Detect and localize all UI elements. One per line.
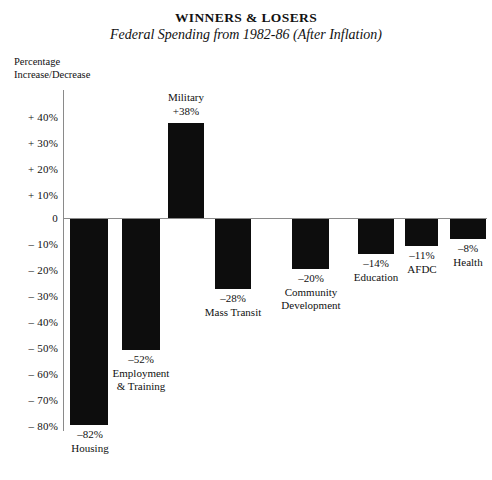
- y-tick-label: – 20%: [2, 265, 58, 276]
- bar-label-health: –8%Health: [440, 242, 492, 269]
- bar-value-employment-training: –52%: [96, 353, 186, 367]
- bar-label-housing: –82%Housing: [52, 428, 128, 455]
- bar-education: [358, 219, 394, 254]
- bar-employment-training: [122, 219, 160, 350]
- bar-label-military: Military+38%: [144, 91, 228, 118]
- bar-military: [168, 123, 204, 218]
- y-tick-label: – 40%: [2, 317, 58, 328]
- y-tick-label: – 30%: [2, 291, 58, 302]
- y-axis-tick-labels: + 40%+ 30%+ 20%+ 10%0– 10%– 20%– 30%– 40…: [0, 0, 58, 480]
- y-tick-label: + 30%: [2, 138, 58, 149]
- bar-housing: [70, 219, 108, 425]
- bar-label-employment-training: –52%Employment & Training: [96, 353, 186, 394]
- bar-health: [450, 219, 486, 239]
- chart-title: WINNERS & LOSERS: [0, 10, 492, 26]
- bar-mass-transit: [215, 219, 251, 289]
- bar-category-community-development: Community Development: [264, 286, 358, 313]
- y-tick-label: + 40%: [2, 112, 58, 123]
- bar-category-health: Health: [440, 256, 492, 270]
- chart-container: WINNERS & LOSERS Federal Spending from 1…: [0, 0, 492, 480]
- bar-category-military: Military: [144, 91, 228, 105]
- bar-value-military: +38%: [144, 105, 228, 119]
- bar-category-housing: Housing: [52, 442, 128, 456]
- y-tick-label: + 10%: [2, 190, 58, 201]
- bar-value-housing: –82%: [52, 428, 128, 442]
- bar-community-development: [292, 219, 329, 269]
- chart-subtitle: Federal Spending from 1982-86 (After Inf…: [0, 27, 492, 43]
- y-tick-label: + 20%: [2, 164, 58, 175]
- bar-category-employment-training: Employment & Training: [96, 367, 186, 394]
- y-tick-label: 0: [2, 213, 58, 224]
- y-axis-line: [63, 90, 64, 431]
- y-tick-label: – 50%: [2, 343, 58, 354]
- y-tick-label: – 70%: [2, 395, 58, 406]
- y-tick-label: – 10%: [2, 239, 58, 250]
- y-tick-label: – 60%: [2, 369, 58, 380]
- bar-value-health: –8%: [440, 242, 492, 256]
- y-tick-label: – 80%: [2, 421, 58, 432]
- bar-afdc: [405, 219, 438, 246]
